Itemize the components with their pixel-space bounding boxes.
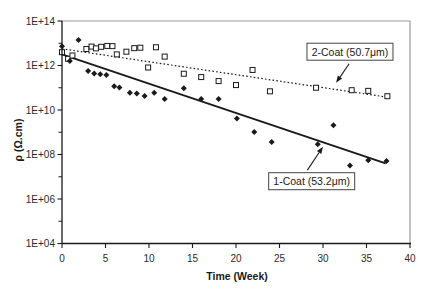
x-tick-label: 40 bbox=[404, 253, 416, 264]
data-point-2coat bbox=[153, 45, 158, 50]
data-point-2coat bbox=[84, 47, 89, 52]
data-point-2coat bbox=[93, 46, 98, 51]
data-point-2coat bbox=[314, 85, 319, 90]
data-point-2coat bbox=[181, 71, 186, 76]
annotation-label: 1-Coat (53.2μm) bbox=[273, 175, 350, 187]
x-tick-label: 5 bbox=[103, 253, 109, 264]
data-point-2coat bbox=[70, 53, 75, 58]
y-tick-label: 1E+12 bbox=[26, 60, 56, 71]
x-axis-ticks: 0510152025303540 bbox=[59, 244, 416, 264]
data-point-2coat bbox=[267, 89, 272, 94]
data-point-2coat bbox=[105, 43, 110, 48]
data-point-2coat bbox=[146, 65, 151, 70]
data-point-2coat bbox=[385, 94, 390, 99]
x-tick-label: 20 bbox=[230, 253, 242, 264]
data-point-2coat bbox=[234, 83, 239, 88]
data-point-2coat bbox=[199, 75, 204, 80]
data-point-2coat bbox=[124, 49, 129, 54]
data-point-2coat bbox=[216, 79, 221, 84]
data-point-2coat bbox=[132, 46, 137, 51]
y-tick-label: 1E+06 bbox=[26, 194, 56, 205]
data-point-2coat bbox=[138, 45, 143, 50]
data-point-2coat bbox=[114, 52, 119, 57]
x-tick-label: 0 bbox=[59, 253, 65, 264]
data-point-2coat bbox=[162, 54, 167, 59]
x-tick-label: 15 bbox=[187, 253, 199, 264]
data-point-2coat bbox=[110, 44, 115, 49]
x-axis-title: Time (Week) bbox=[206, 270, 267, 282]
resistivity-vs-time-figure: 1E+041E+061E+081E+101E+121E+14 051015202… bbox=[0, 0, 429, 295]
y-tick-label: 1E+04 bbox=[26, 238, 56, 249]
data-point-2coat bbox=[366, 88, 371, 93]
annotation-label: 2-Coat (50.7μm) bbox=[312, 46, 389, 58]
y-tick-label: 1E+10 bbox=[26, 105, 56, 116]
data-point-2coat bbox=[349, 88, 354, 93]
y-tick-label: 1E+08 bbox=[26, 149, 56, 160]
y-axis-title: ρ (Ω.cm) bbox=[12, 119, 24, 162]
y-axis-ticks: 1E+041E+061E+081E+101E+121E+14 bbox=[26, 16, 62, 250]
data-point-2coat bbox=[250, 67, 255, 72]
resistivity-chart: 1E+041E+061E+081E+101E+121E+14 051015202… bbox=[0, 0, 429, 295]
y-tick-label: 1E+14 bbox=[26, 16, 56, 27]
x-tick-label: 25 bbox=[274, 253, 286, 264]
x-tick-label: 10 bbox=[143, 253, 155, 264]
x-tick-label: 35 bbox=[361, 253, 373, 264]
data-point-2coat bbox=[99, 44, 104, 49]
x-tick-label: 30 bbox=[317, 253, 329, 264]
